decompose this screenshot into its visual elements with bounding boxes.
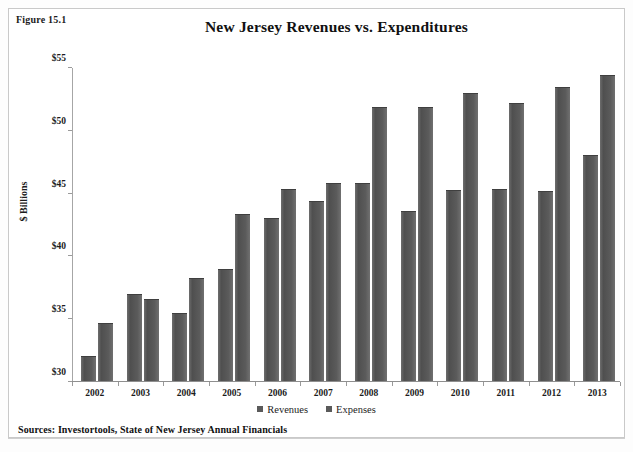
bar-group <box>309 68 341 381</box>
bar-revenues-2005[interactable] <box>218 269 233 381</box>
x-tick-mark <box>300 382 301 386</box>
legend-item-expenses[interactable]: Expenses <box>326 404 376 415</box>
x-tick-mark <box>529 382 530 386</box>
x-tick-mark <box>346 382 347 386</box>
x-tick-mark <box>620 382 621 386</box>
bar-group <box>172 68 204 381</box>
legend-label: Expenses <box>336 404 376 415</box>
bar-expenses-2009[interactable] <box>418 107 433 381</box>
bar-group <box>446 68 478 381</box>
y-tick-mark <box>68 318 72 319</box>
bar-group <box>401 68 433 381</box>
y-tick-label: $40 <box>52 241 66 251</box>
chart-plot-area: $ Billions $30$35$40$45$50$55 2002200320… <box>0 0 633 452</box>
x-tick-mark <box>437 382 438 386</box>
y-tick-mark <box>68 130 72 131</box>
y-tick-label: $35 <box>52 304 66 314</box>
bar-group <box>218 68 250 381</box>
legend-label: Revenues <box>267 404 308 415</box>
x-tick-mark <box>574 382 575 386</box>
bar-expenses-2013[interactable] <box>600 75 615 381</box>
bar-expenses-2007[interactable] <box>326 183 341 381</box>
bar-revenues-2006[interactable] <box>264 218 279 381</box>
bar-expenses-2006[interactable] <box>281 189 296 381</box>
bar-revenues-2012[interactable] <box>538 191 553 381</box>
bar-revenues-2013[interactable] <box>583 155 598 381</box>
bar-revenues-2004[interactable] <box>172 313 187 381</box>
bar-expenses-2011[interactable] <box>509 103 524 381</box>
y-tick-mark <box>68 255 72 256</box>
bar-group <box>538 68 570 381</box>
figure-page: Figure 15.1 New Jersey Revenues vs. Expe… <box>0 0 633 452</box>
y-tick-label: $50 <box>52 116 66 126</box>
bar-group <box>127 68 159 381</box>
bar-expenses-2010[interactable] <box>463 93 478 381</box>
legend-swatch-icon <box>326 406 332 412</box>
bar-revenues-2009[interactable] <box>401 211 416 381</box>
bar-revenues-2007[interactable] <box>309 201 324 381</box>
x-tick-mark <box>255 382 256 386</box>
bar-group <box>264 68 296 381</box>
bar-revenues-2011[interactable] <box>492 189 507 381</box>
y-tick-label: $55 <box>52 53 66 63</box>
x-tick-mark <box>209 382 210 386</box>
bar-expenses-2004[interactable] <box>189 278 204 381</box>
bar-expenses-2008[interactable] <box>372 107 387 381</box>
bar-group <box>492 68 524 381</box>
y-axis-title: $ Billions <box>18 157 29 247</box>
legend-item-revenues[interactable]: Revenues <box>257 404 308 415</box>
bar-group <box>583 68 615 381</box>
legend-swatch-icon <box>257 406 263 412</box>
x-tick-label: 2013 <box>567 388 627 398</box>
y-tick-label: $45 <box>52 179 66 189</box>
bar-revenues-2010[interactable] <box>446 190 461 381</box>
x-tick-mark <box>118 382 119 386</box>
bar-expenses-2012[interactable] <box>555 87 570 381</box>
y-axis-line <box>72 68 73 382</box>
bar-expenses-2003[interactable] <box>144 299 159 381</box>
bar-expenses-2005[interactable] <box>235 214 250 381</box>
bar-revenues-2008[interactable] <box>355 183 370 381</box>
x-tick-mark <box>392 382 393 386</box>
y-tick-mark <box>68 67 72 68</box>
y-tick-label: $30 <box>52 367 66 377</box>
bar-group <box>81 68 113 381</box>
source-note: Sources: Investortools, State of New Jer… <box>18 424 287 435</box>
bar-revenues-2003[interactable] <box>127 294 142 381</box>
x-tick-mark <box>72 382 73 386</box>
bar-expenses-2002[interactable] <box>98 323 113 381</box>
bar-chart: $30$35$40$45$50$55 <box>72 68 620 382</box>
x-tick-mark <box>163 382 164 386</box>
bar-group <box>355 68 387 381</box>
bar-revenues-2002[interactable] <box>81 356 96 381</box>
x-tick-mark <box>483 382 484 386</box>
y-tick-mark <box>68 193 72 194</box>
chart-legend: RevenuesExpenses <box>0 404 633 415</box>
footer-divider <box>8 438 625 439</box>
